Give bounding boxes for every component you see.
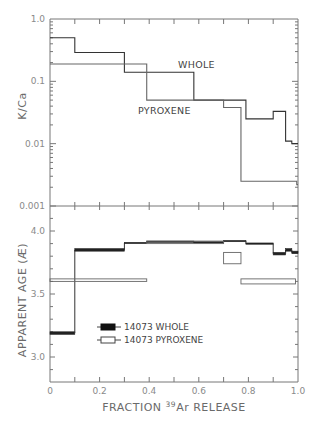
x-axis-title: FRACTION 39Ar RELEASE (102, 400, 246, 414)
x-axis-title-suffix: Ar RELEASE (176, 401, 246, 414)
xtick-label: 0.2 (92, 386, 106, 396)
xtick-label: 0.4 (142, 386, 157, 396)
series-whole (50, 38, 298, 144)
ytick-label: 3.5 (31, 289, 45, 299)
series-pyroxene (50, 64, 298, 185)
bottom-series (50, 240, 298, 334)
x-axis-title-prefix: FRACTION (102, 401, 165, 414)
ytick-label: 0.1 (31, 76, 45, 86)
series-whole (50, 240, 298, 334)
filled-box-icon (101, 324, 115, 330)
bottom-panel: 4.0 3.5 3.0 APPARENT AGE (Æ) 0 0.2 0.4 0… (16, 206, 305, 414)
annotation-pyroxene: PYROXENE (138, 105, 191, 116)
ytick-label: 0.01 (25, 139, 45, 149)
legend-label-whole: 14073 WHOLE (124, 322, 189, 332)
legend-item-whole: 14073 WHOLE (97, 322, 189, 332)
x-axis-title-superscript: 39 (166, 400, 177, 409)
xtick-label: 0.8 (241, 386, 256, 396)
legend-item-pyroxene: 14073 PYROXENE (97, 335, 204, 345)
open-box-icon (101, 337, 115, 343)
top-panel: 1.0 0.1 0.01 0.001 K/Ca WHOLE PYROXENE (16, 14, 298, 211)
ytick-label: 3.0 (31, 352, 46, 362)
ytick-label: 1.0 (31, 14, 46, 24)
top-y-axis-title: K/Ca (16, 92, 29, 119)
ytick-label: 4.0 (31, 226, 46, 236)
xtick-label: 0.6 (192, 386, 207, 396)
ytick-label: 0.001 (19, 201, 45, 211)
legend: 14073 WHOLE 14073 PYROXENE (97, 322, 204, 345)
xtick-label: 0 (47, 386, 53, 396)
xtick-label: 1.0 (291, 386, 306, 396)
annotation-whole: WHOLE (178, 59, 215, 70)
series-pyroxene (50, 241, 296, 284)
legend-label-pyroxene: 14073 PYROXENE (124, 335, 204, 345)
age-spectrum-figure: 1.0 0.1 0.01 0.001 K/Ca WHOLE PYROXENE 4… (0, 0, 319, 422)
bottom-y-axis-title: APPARENT AGE (Æ) (16, 243, 29, 357)
